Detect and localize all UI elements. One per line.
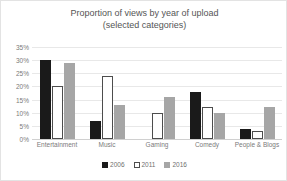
y-axis-tick-label: 35% — [16, 44, 29, 51]
bar-group — [32, 47, 82, 139]
x-axis-tick-label: People & Blogs — [235, 141, 279, 148]
y-axis-tick-label: 10% — [16, 109, 29, 116]
bar — [214, 113, 225, 139]
legend-swatch-icon — [164, 162, 170, 168]
x-axis-tick-label: Gaming — [146, 141, 169, 148]
y-axis-tick-label: 0% — [20, 136, 29, 143]
bar-group — [132, 47, 182, 139]
bars-layer — [32, 47, 282, 139]
y-axis: 35%30%25%20%15%10%5%0% — [1, 47, 29, 139]
gridline — [32, 139, 282, 140]
bar — [202, 107, 213, 139]
bar-group — [82, 47, 132, 139]
bar — [164, 97, 175, 139]
x-axis-tick-label: Music — [99, 141, 116, 148]
y-axis-tick-label: 30% — [16, 57, 29, 64]
bar — [40, 60, 51, 139]
bar — [102, 76, 113, 139]
bar-group — [182, 47, 232, 139]
plot-area — [32, 47, 282, 139]
y-axis-tick-label: 20% — [16, 83, 29, 90]
y-axis-tick-label: 25% — [16, 70, 29, 77]
legend-item-label: 2011 — [142, 161, 156, 168]
bar — [240, 129, 251, 140]
x-axis: EntertainmentMusicGamingComedyPeople & B… — [32, 141, 282, 153]
bar — [114, 105, 125, 139]
legend-item[interactable]: 2011 — [134, 161, 156, 168]
bar — [64, 63, 75, 139]
bar — [190, 92, 201, 139]
chart-card: Proportion of views by year of upload (s… — [0, 0, 287, 181]
bar-group — [232, 47, 282, 139]
bar — [90, 121, 101, 139]
legend-item[interactable]: 2006 — [102, 161, 124, 168]
chart-legend: 200620112016 — [1, 161, 287, 168]
x-axis-tick-label: Entertainment — [37, 141, 77, 148]
y-axis-tick-label: 5% — [20, 122, 29, 129]
legend-item-label: 2016 — [172, 161, 186, 168]
legend-item-label: 2006 — [110, 161, 124, 168]
x-axis-tick-label: Comedy — [195, 141, 219, 148]
bar — [264, 107, 275, 139]
y-axis-tick-label: 15% — [16, 96, 29, 103]
legend-swatch-icon — [134, 162, 140, 168]
chart-title: Proportion of views by year of upload (s… — [1, 8, 287, 31]
legend-swatch-icon — [102, 162, 108, 168]
bar — [252, 131, 263, 139]
legend-item[interactable]: 2016 — [164, 161, 186, 168]
bar — [52, 86, 63, 139]
bar — [152, 113, 163, 139]
